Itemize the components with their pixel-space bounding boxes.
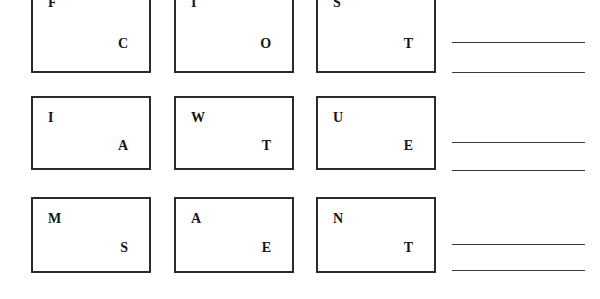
letter-card[interactable]: N T	[316, 197, 436, 273]
worksheet-page: F C I O S T I A W T U E M S A	[0, 0, 600, 299]
card-top-letter: I	[191, 0, 196, 10]
card-bottom-letter: T	[262, 139, 271, 153]
card-grid: F C I O S T I A W T U E M S A	[0, 0, 445, 299]
answer-line[interactable]	[452, 270, 585, 271]
card-bottom-letter: C	[118, 37, 128, 51]
letter-card[interactable]: A E	[174, 197, 294, 273]
letter-card[interactable]: S T	[316, 0, 436, 73]
card-bottom-letter: A	[118, 139, 128, 153]
card-top-letter: M	[48, 212, 61, 226]
answer-line[interactable]	[452, 170, 585, 171]
card-top-letter: F	[48, 0, 57, 10]
card-bottom-letter: S	[120, 241, 128, 255]
card-bottom-letter: T	[404, 241, 413, 255]
letter-card[interactable]: I O	[174, 0, 294, 73]
card-top-letter: S	[333, 0, 341, 10]
letter-card[interactable]: U E	[316, 96, 436, 170]
card-bottom-letter: T	[404, 37, 413, 51]
card-top-letter: N	[333, 212, 343, 226]
card-top-letter: I	[48, 111, 53, 125]
letter-card[interactable]: M S	[31, 197, 151, 273]
card-top-letter: A	[191, 212, 201, 226]
card-bottom-letter: O	[260, 37, 271, 51]
answer-lines-area	[445, 0, 600, 299]
answer-line[interactable]	[452, 42, 585, 43]
card-bottom-letter: E	[404, 139, 413, 153]
answer-line[interactable]	[452, 72, 585, 73]
answer-line[interactable]	[452, 244, 585, 245]
letter-card[interactable]: W T	[174, 96, 294, 170]
card-top-letter: W	[191, 111, 205, 125]
letter-card[interactable]: F C	[31, 0, 151, 73]
card-bottom-letter: E	[262, 241, 271, 255]
letter-card[interactable]: I A	[31, 96, 151, 170]
card-top-letter: U	[333, 111, 343, 125]
answer-line[interactable]	[452, 142, 585, 143]
